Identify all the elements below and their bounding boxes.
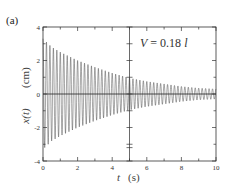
x-tick-label: 0	[41, 164, 45, 172]
y-tick-label: 4	[37, 24, 41, 32]
y-tick-label: 0	[37, 91, 41, 99]
x-axis-label-unit: (s)	[128, 171, 140, 184]
y-axis-label: x(t) (cm)	[19, 67, 32, 125]
x-tick-label: 4	[110, 164, 114, 172]
y-tick-label: 2	[37, 57, 41, 65]
y-axis-label-unit: (cm)	[19, 67, 32, 88]
y-axis-label-var: x(t)	[19, 108, 32, 125]
y-tick-label: -4	[34, 158, 40, 166]
annotation-eq: = 0.18	[147, 36, 184, 50]
chart: 0246810-4-2024 t (s) x(t) (cm)	[0, 0, 229, 191]
x-tick-label: 8	[180, 164, 184, 172]
annotation-velocity: V = 0.18 l	[140, 36, 187, 51]
x-tick-label: 6	[145, 164, 149, 172]
y-tick-label: -2	[34, 124, 40, 132]
x-tick-label: 10	[213, 164, 221, 172]
x-tick-label: 2	[76, 164, 80, 172]
annotation-unit: l	[184, 36, 187, 50]
x-axis-label-var: t	[117, 171, 121, 183]
